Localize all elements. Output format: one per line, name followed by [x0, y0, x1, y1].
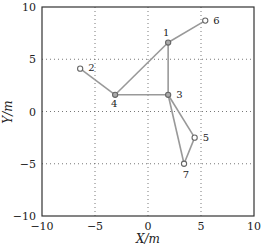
- node-label-6: 6: [213, 15, 219, 26]
- edge-2-4: [80, 69, 115, 95]
- node-7: [181, 161, 186, 166]
- x-tick-label: 5: [198, 220, 205, 233]
- node-5: [192, 135, 197, 140]
- edge-1-6: [168, 21, 205, 43]
- x-axis-label: X/m: [135, 232, 160, 246]
- edge-4-1: [115, 43, 168, 95]
- grid-lines: [42, 7, 254, 216]
- node-3: [166, 92, 171, 97]
- x-tick-label: 10: [247, 220, 261, 233]
- edges: [80, 21, 205, 164]
- chart-canvas: 1234567 −10−50510 −10−50510 X/m Y/m: [0, 0, 262, 248]
- y-tick-label: 0: [29, 106, 36, 119]
- y-tick-label: −10: [13, 210, 36, 223]
- node-6: [203, 18, 208, 23]
- y-tick-label: 5: [29, 53, 36, 66]
- node-2: [78, 66, 83, 71]
- node-label-3: 3: [176, 89, 182, 100]
- node-label-2: 2: [88, 62, 94, 73]
- network-chart: 1234567 −10−50510 −10−50510 X/m Y/m: [0, 0, 262, 248]
- y-tick-label: −5: [20, 158, 36, 171]
- node-1: [166, 40, 171, 45]
- node-label-5: 5: [203, 132, 209, 143]
- node-label-4: 4: [111, 98, 117, 109]
- node-label-7: 7: [183, 169, 189, 180]
- x-tick-label: −5: [87, 220, 103, 233]
- node-label-1: 1: [163, 27, 169, 38]
- y-tick-label: 10: [22, 1, 36, 14]
- edge-5-7: [184, 138, 195, 164]
- node-4: [113, 92, 118, 97]
- nodes: 1234567: [78, 15, 220, 180]
- y-tick-labels: −10−50510: [13, 1, 36, 223]
- y-axis-label: Y/m: [1, 100, 15, 123]
- edge-3-5: [168, 95, 195, 138]
- edge-3-7: [168, 95, 184, 164]
